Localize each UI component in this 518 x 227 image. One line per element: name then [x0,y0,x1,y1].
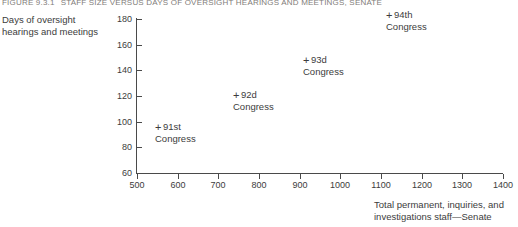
x-tick-mark [422,174,423,179]
x-tick-label: 500 [117,180,157,190]
data-point-label-line2: Congress [233,101,274,113]
x-axis-line [136,173,503,174]
x-tick-label: 1100 [361,180,401,190]
x-tick-mark [381,174,382,179]
y-axis-label-line1: Days of oversight [2,14,107,26]
y-tick-label: 160 [106,40,132,50]
x-axis-label-line2: investigations staff—Senate [374,211,514,223]
data-point-label-line2: Congress [155,133,196,145]
x-tick-label: 800 [239,180,279,190]
figure-title-text: STAFF SIZE VERSUS DAYS OF OVERSIGHT HEAR… [61,0,382,7]
x-tick-label: 600 [158,180,198,190]
x-tick-label: 1400 [483,180,518,190]
data-point-label: 91st Congress [163,121,196,144]
data-point-label: 92d Congress [241,89,274,112]
plus-marker-icon: + [155,122,161,133]
y-axis-label: Days of oversight hearings and meetings [2,14,107,38]
data-point-label-line1: 93d [311,54,327,65]
y-tick-label: 180 [106,14,132,24]
y-tick-label: 140 [106,65,132,75]
data-point-label: 94th Congress [394,9,427,32]
plus-marker-icon: + [233,90,239,101]
data-point-label-line2: Congress [303,66,344,78]
figure-number: FIGURE 9.3.1 [2,0,55,7]
plus-marker-icon: + [386,10,392,21]
x-tick-label: 700 [198,180,238,190]
plus-marker-icon: + [303,55,309,66]
y-tick-label: 120 [106,91,132,101]
y-tick-label: 100 [106,117,132,127]
data-point-label-line2: Congress [386,21,427,33]
y-tick-label: 80 [106,142,132,152]
x-tick-label: 1200 [402,180,442,190]
x-tick-mark [218,174,219,179]
x-tick-label: 900 [280,180,320,190]
y-tick-label: 60 [106,168,132,178]
x-tick-label: 1000 [320,180,360,190]
y-tick-mark [137,19,142,20]
x-tick-mark [340,174,341,179]
x-tick-mark [462,174,463,179]
x-axis-label-line1: Total permanent, inquiries, and [374,199,514,211]
x-tick-mark [300,174,301,179]
x-tick-mark [503,174,504,179]
y-tick-mark [137,96,142,97]
x-axis-label: Total permanent, inquiries, and investig… [374,199,514,223]
y-tick-mark [137,45,142,46]
x-tick-label: 1300 [442,180,482,190]
x-tick-mark [137,174,138,179]
y-tick-mark [137,122,142,123]
data-point-label-line1: 94th [394,9,413,20]
data-point-label-line1: 91st [163,121,181,132]
x-tick-mark [259,174,260,179]
x-tick-mark [178,174,179,179]
figure-caption: FIGURE 9.3.1STAFF SIZE VERSUS DAYS OF OV… [2,0,402,7]
y-tick-mark [137,70,142,71]
data-point-label: 93d Congress [311,54,344,77]
data-point-label-line1: 92d [241,89,257,100]
y-tick-mark [137,147,142,148]
y-axis-label-line2: hearings and meetings [2,26,107,38]
